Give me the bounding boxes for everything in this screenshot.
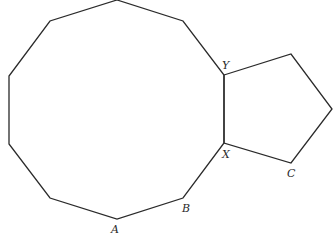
vertex-label-y: Y xyxy=(222,59,231,72)
vertex-label-b: B xyxy=(181,202,190,215)
diagram-canvas: Y X C B A xyxy=(0,0,333,235)
vertex-label-a: A xyxy=(110,223,119,235)
decagon-shape xyxy=(9,0,224,219)
pentagon-shape xyxy=(224,54,332,163)
vertex-label-x: X xyxy=(221,148,231,161)
vertex-label-c: C xyxy=(287,167,296,180)
